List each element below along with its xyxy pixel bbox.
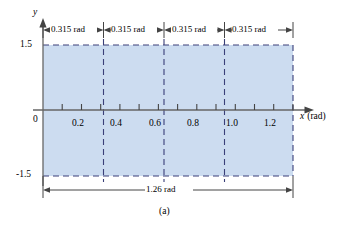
y-tick-label-lower: -1.5: [16, 170, 31, 180]
x-tick-label-4: 1.0: [226, 119, 238, 129]
x-tick-label-1: 0.4: [110, 119, 122, 129]
x-axis-label: x(rad): [300, 112, 326, 122]
figure-container: y x(rad) 1.5 -1.5 0 0.2 0.4 0.6 0.8 1.0 …: [0, 0, 343, 229]
segment-dimension-label-4: 0.315 rad: [232, 25, 266, 34]
x-axis-unit: (rad): [307, 111, 325, 121]
x-tick-label-2: 0.6: [149, 119, 161, 129]
x-axis-symbol: x: [300, 111, 304, 121]
x-tick-label-5: 1.2: [264, 119, 276, 129]
segment-dimension-label-1: 0.315 rad: [51, 25, 85, 34]
total-dimension-label: 1.26 rad: [146, 185, 176, 194]
y-tick-label-upper: 1.5: [20, 40, 32, 50]
y-axis-label: y: [33, 8, 37, 18]
figure-caption: (a): [159, 207, 170, 217]
segment-dimension-label-3: 0.315 rad: [172, 25, 206, 34]
x-tick-label-0: 0.2: [72, 119, 84, 129]
segment-dimension-label-2: 0.315 rad: [111, 25, 145, 34]
figure-svg: [0, 0, 343, 229]
x-tick-label-3: 0.8: [187, 119, 199, 129]
origin-label: 0: [33, 115, 38, 125]
